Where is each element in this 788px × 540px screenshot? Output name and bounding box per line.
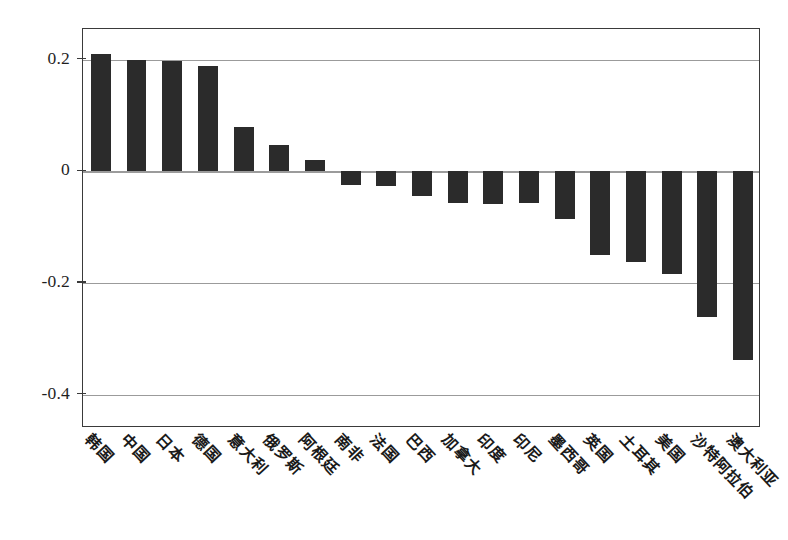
bar bbox=[234, 127, 254, 172]
plot-area bbox=[82, 28, 760, 427]
x-axis-tick-label: 德国 bbox=[189, 431, 224, 467]
bar bbox=[555, 171, 575, 218]
bar bbox=[662, 171, 682, 274]
x-axis-tick-label: 法国 bbox=[367, 431, 402, 467]
bar bbox=[697, 171, 717, 317]
bar bbox=[519, 171, 539, 203]
bar bbox=[448, 171, 468, 202]
y-tick-label: -0.4 bbox=[10, 385, 70, 403]
x-axis-tick-label: 巴西 bbox=[403, 431, 438, 467]
x-axis-tick-label: 日本 bbox=[153, 431, 188, 467]
bar bbox=[269, 145, 289, 171]
bar bbox=[733, 171, 753, 360]
x-axis-labels: 韩国中国日本德国意大利俄罗斯阿根廷南非法国巴西加拿大印度印尼墨西哥英国土耳其美国… bbox=[82, 427, 760, 540]
bar bbox=[91, 54, 111, 172]
bar bbox=[162, 61, 182, 171]
bar bbox=[412, 171, 432, 196]
bars-group bbox=[83, 29, 759, 426]
y-tick-mark bbox=[77, 170, 86, 172]
bar bbox=[376, 171, 396, 186]
y-tick-mark bbox=[77, 393, 86, 395]
bar bbox=[305, 160, 325, 171]
y-tick-label: 0.2 bbox=[10, 50, 70, 68]
y-tick-mark bbox=[77, 58, 86, 60]
x-axis-tick-label: 中国 bbox=[117, 431, 152, 467]
y-tick-label: -0.2 bbox=[10, 273, 70, 291]
bar bbox=[483, 171, 503, 203]
y-tick-label: 0 bbox=[10, 161, 70, 179]
bar bbox=[341, 171, 361, 184]
x-axis-tick-label: 印尼 bbox=[510, 431, 545, 467]
y-tick-mark bbox=[77, 281, 86, 283]
bar bbox=[127, 60, 147, 171]
bar bbox=[198, 66, 218, 171]
bar bbox=[626, 171, 646, 261]
bar-chart-figure: 0.20-0.2-0.4 韩国中国日本德国意大利俄罗斯阿根廷南非法国巴西加拿大印… bbox=[0, 0, 788, 540]
x-axis-tick-label: 韩国 bbox=[82, 431, 117, 467]
bar bbox=[590, 171, 610, 255]
